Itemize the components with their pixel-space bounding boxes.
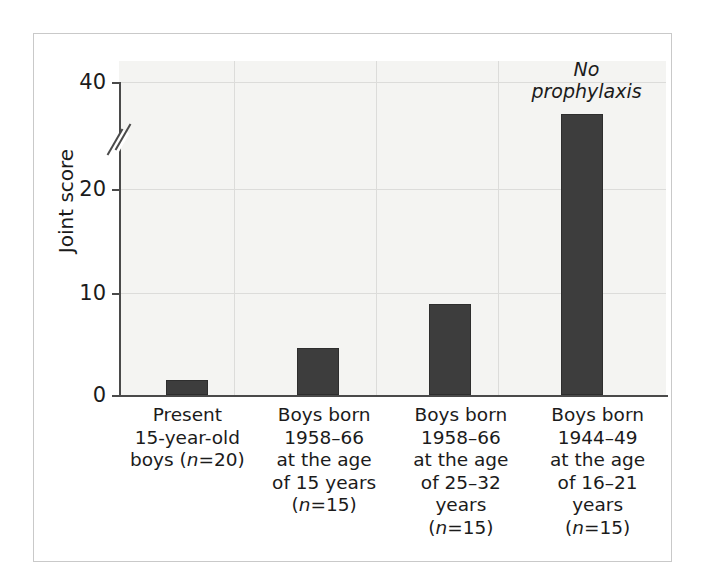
y-axis-title: Joint score bbox=[54, 111, 78, 291]
annotation-no-prophylaxis: No prophylaxis bbox=[514, 58, 659, 103]
x-label-line: (n=15) bbox=[531, 517, 664, 540]
sample-size-symbol: n bbox=[299, 494, 311, 515]
y-tick-mark-0 bbox=[112, 395, 120, 397]
y-tick-mark-10 bbox=[112, 293, 120, 295]
y-axis-break-marker bbox=[108, 122, 130, 162]
x-label-line: at the age bbox=[395, 449, 528, 472]
x-label-line: 1944–49 bbox=[531, 427, 664, 450]
x-label-line: of 15 years bbox=[258, 472, 391, 495]
x-label-line: years bbox=[395, 494, 528, 517]
x-label-0: Present15-year-oldboys (n=20) bbox=[119, 404, 256, 539]
y-tick-label-40: 40 bbox=[54, 72, 106, 93]
x-label-line: 1958–66 bbox=[258, 427, 391, 450]
figure-frame: No prophylaxis 40 20 10 0 Joint score Pr… bbox=[33, 33, 672, 562]
x-label-line: (n=15) bbox=[258, 494, 391, 517]
x-label-2: Boys born1958–66at the ageof 25–32years(… bbox=[393, 404, 530, 539]
x-label-1: Boys born1958–66at the ageof 15 years(n=… bbox=[256, 404, 393, 539]
y-tick-label-0: 0 bbox=[54, 385, 106, 406]
x-label-line: at the age bbox=[258, 449, 391, 472]
x-axis-category-labels: Present15-year-oldboys (n=20) Boys born1… bbox=[119, 404, 666, 539]
x-label-line: 15-year-old bbox=[121, 427, 254, 450]
x-label-3: Boys born1944–49at the ageof 16–21years(… bbox=[529, 404, 666, 539]
annotation-line-1: No bbox=[514, 58, 659, 80]
x-label-line: of 25–32 bbox=[395, 472, 528, 495]
bar-boys-1958-66-age-25-32[interactable] bbox=[429, 304, 471, 395]
y-tick-mark-40 bbox=[112, 82, 120, 84]
gridline-x-1 bbox=[234, 61, 235, 395]
sample-size-symbol: n bbox=[435, 517, 447, 538]
x-label-line: Boys born bbox=[395, 404, 528, 427]
x-axis-line bbox=[112, 395, 668, 397]
gridline-x-3 bbox=[498, 61, 499, 395]
x-label-line: 1958–66 bbox=[395, 427, 528, 450]
x-label-line: Present bbox=[121, 404, 254, 427]
annotation-line-2: prophylaxis bbox=[514, 80, 659, 102]
sample-size-symbol: n bbox=[187, 449, 199, 470]
bar-boys-1944-49-age-16-21[interactable] bbox=[561, 114, 603, 395]
x-label-line: Boys born bbox=[258, 404, 391, 427]
x-label-line: boys (n=20) bbox=[121, 449, 254, 472]
x-label-line: years bbox=[531, 494, 664, 517]
x-label-line: (n=15) bbox=[395, 517, 528, 540]
sample-size-symbol: n bbox=[572, 517, 584, 538]
y-tick-mark-20 bbox=[112, 189, 120, 191]
x-label-line: of 16–21 bbox=[531, 472, 664, 495]
x-label-line: at the age bbox=[531, 449, 664, 472]
bar-boys-1958-66-age-15[interactable] bbox=[297, 348, 339, 395]
x-label-line: Boys born bbox=[531, 404, 664, 427]
gridline-x-2 bbox=[376, 61, 377, 395]
bar-present-15-year-old-boys[interactable] bbox=[166, 380, 208, 395]
